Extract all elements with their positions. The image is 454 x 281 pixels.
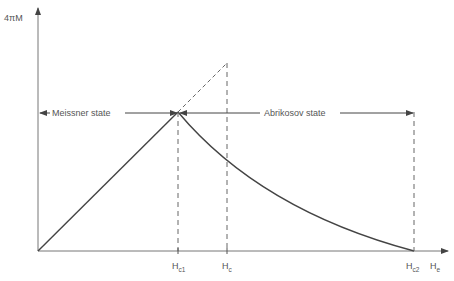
hc-main: H	[222, 261, 229, 271]
abrikosov-state-label: Abrikosov state	[262, 109, 328, 118]
hc1-main: H	[172, 261, 179, 271]
magnetization-diagram	[0, 0, 454, 281]
hc1-sub: c1	[179, 266, 186, 273]
meissner-state-label: Meissner state	[50, 109, 113, 118]
y-axis-label: 4πM	[4, 14, 23, 23]
meissner-curve	[38, 112, 178, 251]
he-sub: e	[437, 266, 441, 273]
hc2-main: H	[406, 261, 413, 271]
hc-label: Hc	[222, 262, 232, 271]
he-main: H	[430, 261, 437, 271]
hc1-label: Hc1	[172, 262, 185, 271]
hc-sub: c	[229, 266, 232, 273]
hc2-label: Hc2	[406, 262, 419, 271]
x-axis-label: He	[430, 262, 440, 271]
hc2-sub: c2	[413, 266, 420, 273]
dashed-extension	[178, 63, 227, 112]
abrikosov-curve	[178, 112, 414, 251]
